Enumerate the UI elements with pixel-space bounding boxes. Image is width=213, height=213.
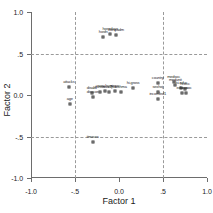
data-point-marker (119, 90, 122, 93)
y-axis-line (31, 12, 32, 178)
data-point-label: hi-gross (127, 81, 140, 85)
gridlines (31, 12, 207, 178)
y-tick (27, 54, 31, 55)
data-point-label: hospadm (109, 28, 124, 32)
data-point-label: sexhoj (153, 85, 163, 89)
data-point-marker (115, 34, 118, 37)
y-tick (27, 12, 31, 13)
x-tick (207, 178, 208, 182)
data-point-marker (132, 87, 135, 90)
data-point-marker (156, 98, 159, 101)
y-tick-label: 0.0 (14, 92, 23, 99)
data-point-label: asthma (115, 85, 127, 89)
y-tick-label: 1.0 (14, 9, 23, 16)
y-tick-label: .5 (17, 50, 23, 57)
y-tick (27, 137, 31, 138)
x-tick (119, 178, 120, 182)
x-tick-label: 0.0 (114, 188, 123, 195)
plot-area: -1.0-.50.0.51.0-1.0-.50.0.51.0 hosfrihos… (31, 12, 207, 178)
x-tick (31, 178, 32, 182)
x-tick (75, 178, 76, 182)
x-tick-label: -1.0 (25, 188, 37, 195)
data-point-marker (109, 32, 112, 35)
x-tick-label: 1.0 (202, 188, 211, 195)
data-point-marker (68, 103, 71, 106)
data-point-marker (184, 92, 187, 95)
data-point-label: occsoc (180, 86, 191, 90)
data-point-label: incomfed1 (149, 92, 166, 96)
data-point-label: age (67, 97, 73, 101)
x-axis-title: Factor 1 (31, 196, 207, 206)
y-tick-label: -.5 (15, 133, 23, 140)
y-tick-label: -1.0 (11, 175, 23, 182)
data-point-marker (103, 89, 106, 92)
gridline-horizontal (31, 54, 207, 55)
data-point-marker (113, 89, 116, 92)
gridline-horizontal (31, 137, 207, 138)
y-axis-title: Factor 2 (2, 70, 12, 130)
gridline-vertical (75, 12, 76, 178)
data-point-marker (91, 141, 94, 144)
data-point-marker (102, 35, 105, 38)
data-point-marker (98, 90, 101, 93)
data-point-label: timeurs (87, 135, 99, 139)
x-tick-label: .5 (160, 188, 166, 195)
data-point-label: attacks (63, 80, 74, 84)
data-point-marker (67, 85, 70, 88)
data-point-label: country (152, 76, 164, 80)
data-point-marker (92, 95, 95, 98)
factor-loading-scatter-plot: -1.0-.50.0.51.0-1.0-.50.0.51.0 hosfrihos… (0, 0, 213, 213)
data-point-marker (108, 90, 111, 93)
y-tick (27, 178, 31, 179)
x-tick (163, 178, 164, 182)
x-tick-label: -.5 (71, 188, 79, 195)
y-tick (27, 95, 31, 96)
